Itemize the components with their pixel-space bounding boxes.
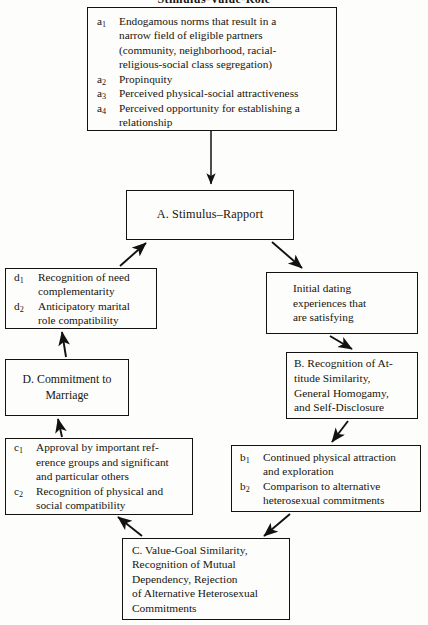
arrow-b-to-C xyxy=(264,514,290,536)
list-item: a2 Propinquity xyxy=(97,72,328,86)
box-text: are satisfying xyxy=(293,310,354,324)
stage-a-box: A. Stimulus–Rapport xyxy=(126,190,294,240)
list-item: d1 Recognition of need complementarity xyxy=(14,270,150,299)
arrow-C-to-c xyxy=(118,517,142,536)
arrow-D-to-d xyxy=(62,332,66,357)
item-text: Comparison to alternative xyxy=(263,479,415,493)
stage-d-box: D. Commitment to Marriage xyxy=(5,359,129,416)
item-label-b1: b1 xyxy=(240,450,263,464)
stage-a-label: A. Stimulus–Rapport xyxy=(157,207,263,223)
stage-b-label: and Self-Disclosure xyxy=(294,400,412,415)
arrow-d-to-A xyxy=(120,243,146,266)
box-text: experiences that xyxy=(293,296,366,310)
box-text: Initial dating xyxy=(293,281,351,295)
stage-c-label: Recognition of Mutual xyxy=(132,557,283,572)
stage-c-label: Dependency, Rejection xyxy=(132,572,283,587)
stage-c-label: C. Value-Goal Similarity, xyxy=(132,543,283,558)
item-text: Endogamous norms that result in a xyxy=(119,14,328,28)
list-item: b2 Comparison to alternative heterosexua… xyxy=(240,479,415,508)
item-text: role compatibility xyxy=(38,313,150,327)
stage-b-box: B. Recognition of At- titude Similarity,… xyxy=(286,352,418,419)
item-text: Anticipatory marital xyxy=(38,299,150,313)
item-text: Recognition of physical and xyxy=(36,484,187,498)
item-text: Perceived physical-social attractiveness xyxy=(119,86,328,100)
stage-d-label: D. Commitment to xyxy=(23,372,112,387)
arrow-initial-dating-to-B xyxy=(330,336,352,349)
item-text: Approval by important ref- xyxy=(36,440,187,454)
item-text: narrow field of eligible partners xyxy=(119,28,328,42)
item-text: erence groups and significant xyxy=(36,455,187,469)
need-complementarity-box: d1 Recognition of need complementarity d… xyxy=(5,268,157,329)
list-item: d2 Anticipatory marital role compatibili… xyxy=(14,299,150,328)
arrow-c-to-D xyxy=(58,419,62,437)
stage-c-label: of Alternative Heterosexual xyxy=(132,586,283,601)
stage-b-label: B. Recognition of At- xyxy=(294,356,412,371)
list-item: a4 Perceived opportunity for establishin… xyxy=(97,101,328,130)
arrow-A-to-initial-dating xyxy=(272,242,302,268)
item-text: Propinquity xyxy=(119,72,328,86)
list-item: c2 Recognition of physical and social co… xyxy=(14,484,187,513)
stage-c-label: Commitments xyxy=(132,601,283,616)
list-item: b1 Continued physical attraction and exp… xyxy=(240,450,415,479)
arrow-B-to-b xyxy=(332,421,348,442)
item-label-c1: c1 xyxy=(14,440,36,454)
item-text: religious-social class segregation) xyxy=(119,57,328,71)
item-text: Continued physical attraction xyxy=(263,450,415,464)
item-text: heterosexual commitments xyxy=(263,493,415,507)
item-label-a2: a2 xyxy=(97,72,119,86)
stage-b-label: titude Similarity, xyxy=(294,371,412,386)
item-text: Recognition of need xyxy=(38,270,150,284)
diagram-canvas: Stimulus-Value-Role xyxy=(0,0,428,625)
page-title-text: Stimulus-Value-Role xyxy=(0,0,428,5)
item-label-a1: a1 xyxy=(97,14,119,28)
list-item: c1 Approval by important ref- erence gro… xyxy=(14,440,187,483)
item-label-c2: c2 xyxy=(14,484,36,498)
item-text: complementarity xyxy=(38,284,150,298)
item-label-a3: a3 xyxy=(97,86,119,100)
initial-dating-box: Initial dating experiences that are sati… xyxy=(266,272,418,334)
item-label-d1: d1 xyxy=(14,270,38,284)
stage-b-label: General Homogamy, xyxy=(294,386,412,401)
item-label-d2: d2 xyxy=(14,299,38,313)
stage-d-label: Marriage xyxy=(45,388,88,403)
list-item: a3 Perceived physical-social attractiven… xyxy=(97,86,328,100)
item-text: social compatibility xyxy=(36,498,187,512)
item-label-a4: a4 xyxy=(97,101,119,115)
item-text: and particular others xyxy=(36,469,187,483)
item-text: and exploration xyxy=(263,464,415,478)
item-label-b2: b2 xyxy=(240,479,263,493)
stage-c-box: C. Value-Goal Similarity, Recognition of… xyxy=(122,538,290,620)
physical-attraction-box: b1 Continued physical attraction and exp… xyxy=(231,445,421,512)
item-text: Perceived opportunity for establishing a xyxy=(119,101,328,115)
item-text: (community, neighborhood, racial- xyxy=(119,43,328,57)
list-item: a1 Endogamous norms that result in a nar… xyxy=(97,14,328,72)
social-approval-box: c1 Approval by important ref- erence gro… xyxy=(5,438,193,515)
page-title: Stimulus-Value-Role xyxy=(0,0,428,5)
item-text: relationship xyxy=(119,115,328,129)
stimulus-factors-box: a1 Endogamous norms that result in a nar… xyxy=(87,7,337,131)
